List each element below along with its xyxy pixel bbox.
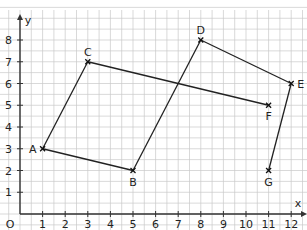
x-axis-arrow-icon xyxy=(301,211,307,217)
x-tick-label: 3 xyxy=(84,218,91,230)
point-label: E xyxy=(297,78,304,91)
y-tick-label: 3 xyxy=(5,143,12,156)
y-tick-label: 1 xyxy=(5,186,12,199)
point-B: B xyxy=(129,168,137,189)
y-tick-label: 2 xyxy=(5,165,12,178)
point-label: D xyxy=(197,24,205,37)
point-label: B xyxy=(129,176,137,189)
y-tick-label: 6 xyxy=(5,78,12,91)
origin-label: O xyxy=(6,218,15,230)
y-axis-label: y xyxy=(25,14,32,27)
point-F: F xyxy=(265,103,271,124)
grid-lines xyxy=(0,7,307,230)
y-axis-arrow-icon xyxy=(17,14,23,20)
x-tick-label: 5 xyxy=(130,218,137,230)
x-tick-label: 6 xyxy=(152,218,159,230)
y-tick-label: 5 xyxy=(5,99,12,112)
x-tick-label: 4 xyxy=(107,218,114,230)
point-label: C xyxy=(84,46,92,59)
x-tick-label: 8 xyxy=(197,218,204,230)
y-tick-label: 4 xyxy=(5,121,12,134)
x-axis-label: x xyxy=(295,197,302,210)
x-tick-label: 10 xyxy=(239,218,253,230)
point-G: G xyxy=(264,168,273,189)
x-tick-label: 7 xyxy=(175,218,182,230)
point-label: F xyxy=(265,110,271,123)
point-label: G xyxy=(264,176,273,189)
y-tick-label: 7 xyxy=(5,56,12,69)
point-label: A xyxy=(29,143,37,156)
x-tick-label: 1 xyxy=(39,218,46,230)
x-tick-label: 11 xyxy=(262,218,276,230)
grid-plot: 12345678910111212345678Oxy ABCDEFG xyxy=(0,0,307,230)
axes: 12345678910111212345678Oxy xyxy=(5,14,307,230)
coordinate-grid-diagram: 12345678910111212345678Oxy ABCDEFG x y O xyxy=(0,0,307,230)
y-tick-label: 8 xyxy=(5,34,12,47)
x-tick-label: 12 xyxy=(284,218,298,230)
x-tick-label: 9 xyxy=(220,218,227,230)
x-tick-label: 2 xyxy=(62,218,69,230)
